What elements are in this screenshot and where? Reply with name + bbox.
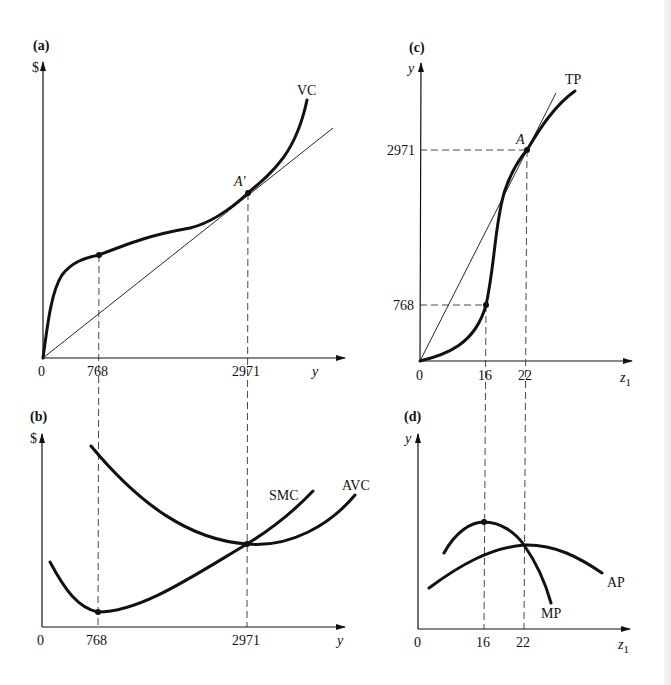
ap-curve (429, 545, 602, 588)
panel-d-origin-label: 0 (414, 635, 421, 650)
mp-maximum-point (481, 519, 487, 525)
panel-c-origin-label: 0 (416, 368, 423, 383)
guide-line-16 (484, 305, 486, 629)
panel-d-y-axis-label: y (403, 431, 412, 446)
guide-line-22 (524, 150, 527, 629)
panel-c-tick-22: 22 (518, 368, 532, 383)
panel-d-tick-16: 16 (476, 635, 490, 650)
mp-curve-label: MP (541, 606, 561, 621)
panel-a-tick-768: 768 (87, 364, 108, 379)
vc-curve-label: VC (297, 83, 316, 98)
panel-a-tag: (a) (33, 38, 50, 54)
guide-line-768 (98, 255, 99, 627)
point-a-prime (245, 190, 251, 196)
point-a (524, 147, 530, 153)
panel-b-y-axis-label: $ (30, 431, 37, 446)
panel-c-x-axis-label: z1 (619, 370, 631, 388)
panel-a-y-axis-label: $ (32, 60, 39, 75)
panel-b-origin-label: 0 (37, 633, 44, 648)
smc-curve-label: SMC (269, 488, 299, 503)
panel-b-tag: (b) (30, 409, 47, 425)
panel-b-x-axis-label: y (335, 633, 344, 648)
point-a-label: A (515, 132, 525, 147)
panel-d-tag: (d) (404, 409, 421, 425)
panel-a-x-axis-label: y (310, 364, 319, 379)
panel-a-origin-label: 0 (38, 364, 45, 379)
tp-inflection-point (483, 302, 489, 308)
panel-c-y-axis (420, 63, 421, 361)
mp-curve (444, 522, 551, 603)
panel-a-tick-2971: 2971 (232, 364, 260, 379)
panel-d-x-axis-label: z1 (617, 637, 629, 655)
panel-c-tick-16: 16 (478, 368, 492, 383)
tp-curve (420, 91, 575, 361)
avc-minimum-point (244, 541, 250, 547)
vc-inflection-point (96, 252, 102, 258)
panel-c-tick-768: 768 (393, 298, 414, 313)
panel-c-total-product: (c) y 0 16 22 z1 2971 768 A TP (387, 40, 632, 629)
ray-from-origin-a (43, 128, 333, 358)
panel-c-tick-2971: 2971 (387, 143, 415, 158)
panel-c-y-axis-label: y (406, 61, 415, 76)
point-a-prime-label: A′ (233, 174, 247, 189)
cost-production-figure: (a) $ 0 768 2971 y A′ VC (b) $ 0 768 297… (0, 0, 671, 685)
smc-minimum-point (95, 609, 101, 615)
smc-curve (50, 491, 313, 612)
avc-curve-label: AVC (342, 478, 370, 493)
panel-d-marginal-average-product: (d) y 0 16 22 z1 MP AP (403, 409, 630, 655)
avc-curve (91, 446, 355, 544)
panel-c-tag: (c) (409, 40, 425, 56)
tp-curve-label: TP (565, 72, 582, 87)
panel-b-tick-2971: 2971 (232, 633, 260, 648)
guide-line-2971 (247, 193, 248, 627)
vc-curve (43, 100, 307, 358)
panel-b-tick-768: 768 (86, 633, 107, 648)
ap-curve-label: AP (607, 575, 625, 590)
panel-b-cost-curves: (b) $ 0 768 2971 y SMC AVC (30, 409, 370, 648)
panel-d-tick-22: 22 (516, 635, 530, 650)
panel-a-variable-cost: (a) $ 0 768 2971 y A′ VC (32, 38, 345, 627)
